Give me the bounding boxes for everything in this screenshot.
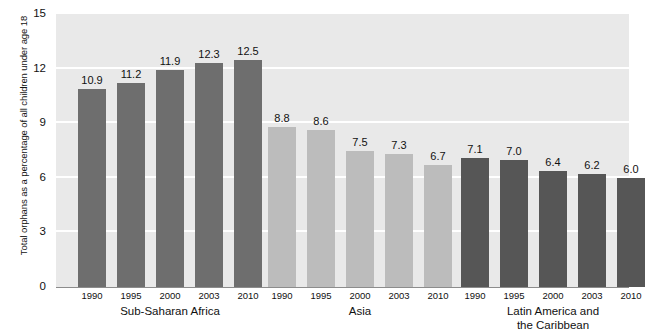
- group-label: Latin America andthe Caribbean: [421, 305, 649, 329]
- group-label-line: the Caribbean: [421, 319, 649, 329]
- bar-value-label: 6.7: [430, 151, 445, 162]
- bar: [268, 127, 296, 287]
- gridline: [56, 12, 629, 14]
- x-tick-label: 2000: [150, 291, 190, 301]
- bar: [117, 83, 145, 287]
- x-tick-label: 1990: [455, 291, 495, 301]
- bar-value-label: 6.2: [584, 160, 599, 171]
- plot-area: 10.911.211.912.312.58.88.67.57.36.77.17.…: [56, 14, 629, 287]
- bar: [385, 154, 413, 287]
- x-axis-line: [56, 287, 629, 288]
- bar-value-label: 7.3: [391, 140, 406, 151]
- bar: [307, 130, 335, 287]
- x-tick-label: 2003: [189, 291, 229, 301]
- x-tick-label: 2010: [611, 291, 649, 301]
- gridline: [56, 67, 629, 69]
- bar-value-label: 6.4: [545, 157, 560, 168]
- bar: [78, 89, 106, 287]
- bar: [461, 158, 489, 287]
- bar: [500, 160, 528, 287]
- bar-value-label: 12.5: [237, 46, 258, 57]
- y-tick-label: 9: [0, 117, 46, 129]
- bar: [424, 165, 452, 287]
- y-tick-label: 6: [0, 172, 46, 184]
- x-tick-label: 2000: [533, 291, 573, 301]
- x-tick-label: 2010: [418, 291, 458, 301]
- bar-value-label: 11.9: [160, 56, 181, 67]
- bar-value-label: 7.1: [467, 144, 482, 155]
- bar: [617, 178, 645, 287]
- x-tick-label: 2003: [379, 291, 419, 301]
- y-tick-label: 0: [0, 281, 46, 293]
- bar-value-label: 10.9: [81, 75, 102, 86]
- x-tick-label: 1990: [262, 291, 302, 301]
- x-tick-label: 2000: [340, 291, 380, 301]
- x-tick-label: 1995: [301, 291, 341, 301]
- y-tick-label: 12: [0, 63, 46, 75]
- y-tick-label: 15: [0, 8, 46, 20]
- bar-value-label: 7.0: [506, 146, 521, 157]
- y-axis-ticks: 03691215: [0, 0, 49, 329]
- bar: [578, 174, 606, 287]
- y-tick-label: 3: [0, 226, 46, 238]
- bar: [539, 171, 567, 287]
- x-tick-label: 1990: [72, 291, 112, 301]
- bar-value-label: 8.6: [313, 116, 328, 127]
- x-tick-label: 1995: [494, 291, 534, 301]
- x-tick-label: 2003: [572, 291, 612, 301]
- bar: [156, 70, 184, 287]
- bar: [195, 63, 223, 287]
- bar: [346, 151, 374, 288]
- bar: [234, 60, 262, 288]
- group-label-line: Latin America and: [421, 305, 649, 319]
- x-tick-label: 1995: [111, 291, 151, 301]
- bar-value-label: 8.8: [274, 113, 289, 124]
- bar-value-label: 7.5: [352, 137, 367, 148]
- bar-value-label: 12.3: [198, 49, 219, 60]
- bar-value-label: 11.2: [121, 69, 142, 80]
- bar-value-label: 6.0: [623, 164, 638, 175]
